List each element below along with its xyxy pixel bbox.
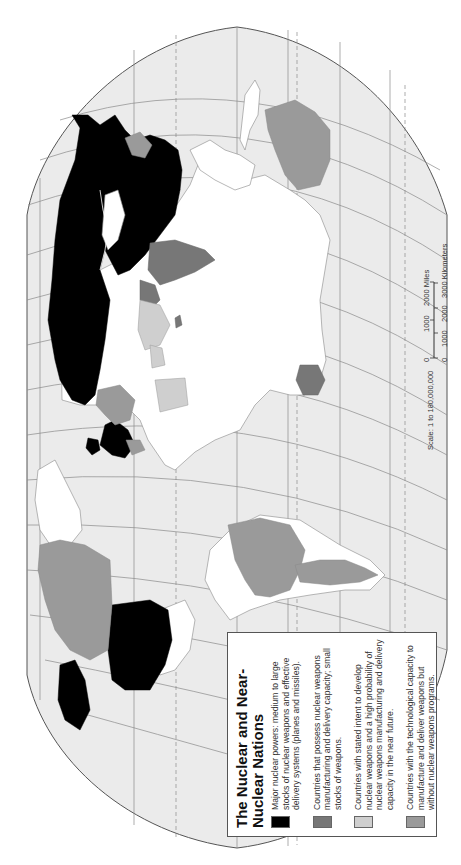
legend-swatch-light-gray — [354, 816, 373, 828]
legend-item-intent: Countries with stated intent to develop … — [353, 639, 395, 828]
scale-miles-1000: 1000 — [422, 315, 431, 332]
scale-miles-2000: 2000 Miles — [422, 270, 431, 306]
legend-swatch-dark-gray — [313, 816, 332, 828]
legend: The Nuclear and Near-Nuclear Nations Maj… — [227, 632, 437, 837]
scale-miles-0: 0 — [422, 358, 431, 362]
legend-swatch-black — [271, 816, 290, 828]
legend-content: The Nuclear and Near-Nuclear Nations Maj… — [228, 633, 438, 838]
legend-label: Major nuclear powers: medium to large st… — [270, 639, 302, 810]
legend-item-possess: Countries that possess nuclear weapons m… — [312, 639, 344, 828]
legend-item-major: Major nuclear powers: medium to large st… — [270, 639, 302, 828]
scale-km-0: 0 — [440, 358, 449, 362]
scale-km-3000: 3000 Kilometers — [440, 244, 449, 298]
scale-km-2000: 2000 — [440, 305, 449, 322]
legend-label: Countries with stated intent to develop … — [353, 639, 395, 810]
scale-km-1000: 1000 — [440, 330, 449, 347]
legend-item-tech: Countries with the technological capacit… — [405, 639, 437, 828]
legend-swatch-medium-gray — [406, 816, 425, 828]
legend-title: The Nuclear and Near-Nuclear Nations — [234, 639, 266, 828]
scale-ratio-label: Scale: 1 to 180,000,000 — [426, 371, 435, 450]
legend-label: Countries with the technological capacit… — [405, 639, 437, 810]
legend-label: Countries that possess nuclear weapons m… — [312, 639, 344, 810]
